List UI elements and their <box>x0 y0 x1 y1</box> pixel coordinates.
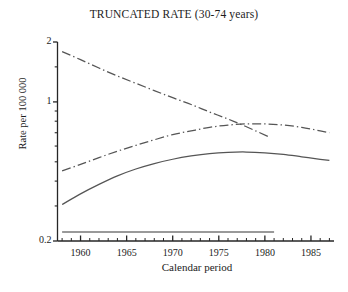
x-tick-label: 1985 <box>286 247 336 258</box>
y-axis-label: Rate per 100 000 <box>17 54 28 174</box>
y-tick-label: 0.2 <box>16 234 52 245</box>
data-series-rising-dashdot-curve <box>62 124 329 171</box>
y-tick-label: 1 <box>16 95 52 106</box>
data-series-solid-curve <box>62 152 329 205</box>
chart-container: TRUNCATED RATE (30-74 years) Rate per 10… <box>0 0 348 292</box>
x-tick-label: 1965 <box>102 247 152 258</box>
x-tick-label: 1980 <box>240 247 290 258</box>
x-tick-label: 1960 <box>56 247 106 258</box>
y-tick-label: 2 <box>16 35 52 46</box>
x-tick-label: 1970 <box>148 247 198 258</box>
x-tick-label: 1975 <box>194 247 244 258</box>
x-axis-label: Calendar period <box>57 261 337 273</box>
